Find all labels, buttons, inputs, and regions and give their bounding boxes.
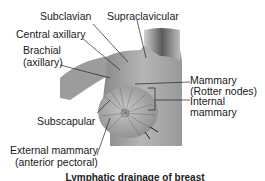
label-internal-mammary-sub: mammary: [190, 107, 237, 118]
label-brachial: Brachial: [23, 45, 61, 56]
label-supraclavicular: Supraclavicular: [107, 11, 179, 22]
anatomical-figure: Subclavian Supraclavicular Central axill…: [0, 0, 265, 181]
label-external-mammary: External mammary: [10, 145, 98, 156]
label-subscapular: Subscapular: [37, 116, 95, 127]
label-brachial-sub: (axillary): [23, 57, 63, 68]
figure-caption: Lymphatic drainage of breast: [40, 172, 230, 181]
label-subclavian: Subclavian: [40, 11, 91, 22]
label-external-mammary-sub: (anterior pectoral): [15, 157, 98, 168]
label-central-axillary: Central axillary: [16, 29, 85, 40]
